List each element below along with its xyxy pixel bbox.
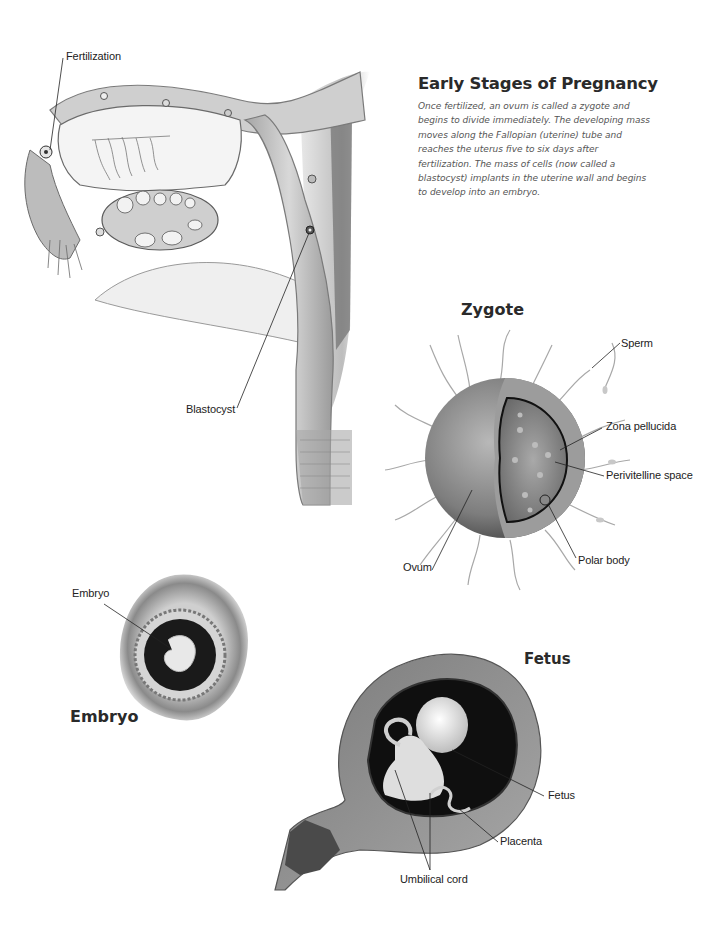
label-umbilical-cord: Umbilical cord: [400, 873, 468, 885]
label-zona-pellucida: Zona pellucida: [606, 420, 676, 432]
fetus-illustration: [275, 654, 544, 890]
sperm-leader-line: [592, 343, 620, 368]
label-perivitelline-space: Perivitelline space: [606, 469, 693, 481]
label-placenta: Placenta: [500, 835, 542, 847]
label-ovum: Ovum: [403, 561, 432, 573]
intro-paragraph: Once fertilized, an ovum is called a zyg…: [418, 99, 654, 200]
fetus-title: Fetus: [524, 650, 571, 668]
embryo-illustration: [104, 574, 248, 720]
zygote-illustration: [385, 330, 630, 590]
label-blastocyst: Blastocyst: [186, 403, 235, 415]
label-fetus: Fetus: [548, 789, 575, 801]
page-title: Early Stages of Pregnancy: [418, 74, 658, 93]
label-polar-body: Polar body: [578, 554, 630, 566]
reproductive-tract-illustration: [25, 58, 370, 505]
label-sperm: Sperm: [621, 337, 653, 349]
label-fertilization: Fertilization: [66, 50, 121, 62]
embryo-title: Embryo: [70, 707, 138, 726]
zygote-title: Zygote: [461, 300, 524, 319]
label-embryo: Embryo: [72, 587, 109, 599]
